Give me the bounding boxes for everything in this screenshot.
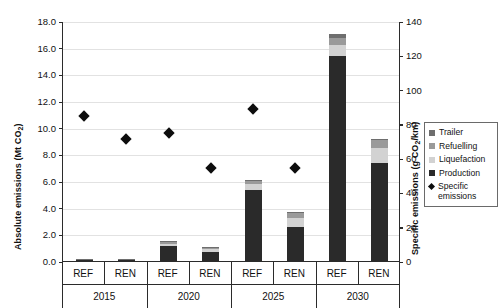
bar-segment-trailer — [202, 247, 219, 248]
bar-segment-trailer — [329, 34, 346, 38]
gridline — [63, 182, 399, 183]
gridline — [63, 129, 399, 130]
bar-segment-liquefaction — [287, 218, 304, 227]
specific-emissions-marker[interactable] — [205, 162, 216, 173]
y-axis-left-tick — [59, 102, 63, 103]
bar-2020-ren[interactable] — [202, 247, 219, 261]
legend-diamond-icon — [428, 183, 435, 190]
y-axis-left-tick-label: 8.0 — [22, 150, 56, 160]
x-axis-year-label: 2020 — [147, 285, 232, 308]
bar-2020-ref[interactable] — [160, 241, 177, 261]
bar-segment-trailer — [245, 180, 262, 181]
bar-segment-refuelling — [202, 248, 219, 250]
y-axis-left-tick — [59, 155, 63, 156]
legend-item-trailer[interactable]: Trailer — [429, 127, 494, 137]
x-axis-separator — [316, 285, 317, 308]
bar-2030-ref[interactable] — [329, 34, 346, 261]
legend-item-liquefaction[interactable]: Liquefaction — [429, 154, 494, 164]
bar-segment-liquefaction — [329, 45, 346, 56]
legend-item-label: Trailer — [439, 127, 463, 137]
y-axis-left-tick-label: 18.0 — [22, 17, 56, 27]
y-axis-left-tick-label: 16.0 — [22, 44, 56, 54]
y-axis-left-tick — [59, 235, 63, 236]
bar-segment-trailer — [160, 241, 177, 242]
y-axis-right-tick-label: 140 — [406, 17, 436, 27]
y-axis-left-tick-label: 4.0 — [22, 204, 56, 214]
bar-segment-liquefaction — [160, 244, 177, 246]
y-axis-left-tick — [59, 208, 63, 209]
x-axis-border — [399, 262, 400, 308]
bar-segment-trailer — [371, 139, 388, 140]
bar-segment-trailer — [118, 259, 135, 260]
legend-swatch-icon — [429, 170, 435, 176]
y-axis-left-tick — [59, 22, 63, 23]
specific-emissions-marker[interactable] — [290, 162, 301, 173]
bar-segment-production — [245, 190, 262, 261]
bar-2025-ren[interactable] — [287, 212, 304, 261]
bar-segment-production — [118, 260, 135, 261]
gridline — [63, 155, 399, 156]
gridline — [63, 235, 399, 236]
x-axis-scenario-label: REF — [316, 262, 358, 284]
y-axis-left-tick-label: 2.0 — [22, 230, 56, 240]
x-axis-scenario-row: REFRENREFRENREFRENREFREN — [62, 262, 400, 285]
y-axis-left-tick-label: 10.0 — [22, 124, 56, 134]
specific-emissions-marker[interactable] — [247, 104, 258, 115]
chart-container: Absolute emissions (Mt CO2) Specific emi… — [0, 0, 498, 308]
bar-segment-trailer — [287, 212, 304, 213]
gridline — [63, 102, 399, 103]
legend-item-label: Production — [439, 168, 480, 178]
x-axis-separator — [147, 262, 148, 285]
y-axis-right-tick — [399, 90, 403, 91]
bar-2015-ref[interactable] — [76, 259, 93, 261]
bar-segment-production — [202, 252, 219, 261]
y-axis-left-tick-label: 0.0 — [22, 257, 56, 267]
x-axis-year-row: 2015202020252030 — [62, 285, 400, 308]
x-axis-separator — [358, 262, 359, 285]
gridline — [63, 209, 399, 210]
y-axis-left-tick — [59, 182, 63, 183]
x-axis-separator — [231, 262, 232, 285]
x-axis-scenario-label: REN — [273, 262, 315, 284]
legend-item-production[interactable]: Production — [429, 168, 494, 178]
x-axis-year-label: 2025 — [231, 285, 316, 308]
y-axis-left-tick-label: 14.0 — [22, 70, 56, 80]
x-axis-scenario-label: REF — [147, 262, 189, 284]
y-axis-right-tick-label: 100 — [406, 86, 436, 96]
x-axis-scenario-label: REF — [231, 262, 273, 284]
bar-segment-refuelling — [329, 38, 346, 45]
bar-segment-production — [329, 56, 346, 261]
specific-emissions-marker[interactable] — [78, 111, 89, 122]
bar-2015-ren[interactable] — [118, 260, 135, 261]
x-axis-separator — [316, 262, 317, 285]
y-axis-right-tick-label: 120 — [406, 51, 436, 61]
x-axis-separator — [189, 262, 190, 285]
bar-segment-production — [76, 260, 93, 261]
bar-2030-ren[interactable] — [371, 139, 388, 261]
y-axis-left-tick — [59, 75, 63, 76]
y-axis-right-tick — [399, 227, 403, 228]
legend-item-label: Specific emissions — [438, 181, 494, 201]
y-axis-left-tick — [59, 48, 63, 49]
bar-segment-trailer — [76, 259, 93, 260]
x-axis-scenario-label: REN — [104, 262, 146, 284]
specific-emissions-marker[interactable] — [121, 133, 132, 144]
bar-segment-liquefaction — [245, 184, 262, 190]
legend-item-label: Liquefaction — [439, 154, 485, 164]
bar-segment-production — [160, 246, 177, 261]
bar-segment-refuelling — [371, 140, 388, 148]
bar-segment-liquefaction — [371, 148, 388, 163]
x-axis-separator — [231, 285, 232, 308]
legend-swatch-icon — [429, 157, 435, 163]
y-axis-right-tick-label: 0 — [406, 257, 436, 267]
x-axis-separator — [147, 285, 148, 308]
legend-item-refuelling[interactable]: Refuelling — [429, 141, 494, 151]
bar-segment-production — [371, 163, 388, 261]
legend-item-label: Refuelling — [439, 141, 477, 151]
bar-2025-ref[interactable] — [245, 180, 262, 261]
x-axis-border — [62, 262, 63, 308]
y-axis-right-tick-label: 20 — [406, 223, 436, 233]
chart-legend: TrailerRefuellingLiquefactionProductionS… — [424, 122, 498, 207]
x-axis: REFRENREFRENREFRENREFREN 201520202025203… — [62, 262, 400, 308]
legend-item-specific-emissions[interactable]: Specific emissions — [429, 181, 494, 201]
